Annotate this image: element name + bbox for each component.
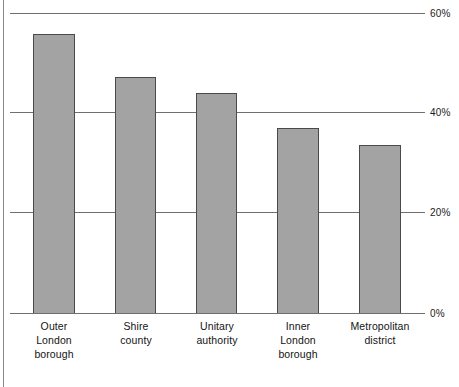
category-label-inner-london-borough: Inner London borough	[258, 319, 338, 361]
category-label-shire-county: Shire county	[96, 319, 176, 347]
bar-inner-london-borough	[277, 128, 319, 314]
category-label-unitary-authority: Unitary authority	[176, 319, 258, 347]
bar-outer-london-borough	[33, 34, 75, 314]
ytick-label-60: 60%	[430, 9, 451, 19]
category-label-outer-london-borough: Outer London borough	[14, 319, 94, 361]
ytick-label-20: 20%	[430, 208, 451, 218]
bar-shire-county	[115, 77, 156, 314]
x-axis-baseline	[10, 313, 425, 314]
bar-chart-figure: 60% 40% 20% 0% Outer London borough Shir…	[0, 0, 459, 387]
ytick-label-0: 0%	[430, 309, 445, 319]
plot-area: 60% 40% 20% 0% Outer London borough Shir…	[0, 0, 459, 387]
bar-unitary-authority	[196, 93, 237, 314]
ytick-label-40: 40%	[430, 108, 451, 118]
bar-metropolitan-district	[359, 145, 401, 314]
category-label-metropolitan-district: Metropolitan district	[336, 319, 424, 347]
gridline-60	[10, 13, 425, 14]
